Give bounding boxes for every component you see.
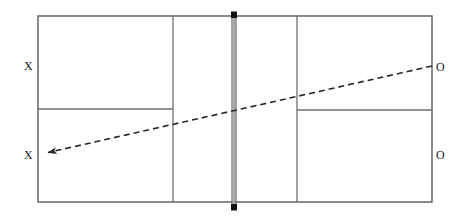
court-svg (0, 0, 465, 218)
player-label-x-bottom: X (24, 149, 33, 161)
player-label-o-top: O (436, 61, 445, 73)
net-post-top-icon (231, 12, 237, 19)
court-diagram: X X O O (0, 0, 465, 218)
player-label-x-top: X (24, 60, 33, 72)
net-post-bottom-icon (231, 204, 237, 211)
player-label-o-bottom: O (436, 149, 445, 161)
